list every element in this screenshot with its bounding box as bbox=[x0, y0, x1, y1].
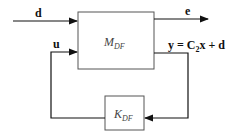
signal-d-label: d bbox=[35, 7, 42, 19]
signal-y-label: y = C2x + d bbox=[168, 39, 225, 54]
signal-u-label: u bbox=[53, 38, 60, 50]
controller-label: KDF bbox=[114, 108, 133, 123]
plant-label: MDF bbox=[104, 36, 125, 51]
signal-e-label: e bbox=[185, 5, 190, 17]
